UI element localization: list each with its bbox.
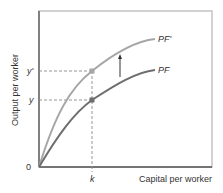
production-function-chart: PF' PF y' y 0 k Capital per worker Outpu… xyxy=(0,0,223,193)
pf-prime-label: PF' xyxy=(158,34,172,44)
y-axis-title: Output per worker xyxy=(10,54,20,126)
pf-prime-point xyxy=(90,69,95,74)
pf-prime-curve xyxy=(39,39,155,167)
x-axis-title: Capital per worker xyxy=(139,174,212,184)
k-tick-label: k xyxy=(90,174,95,184)
y-prime-tick-label: y' xyxy=(26,66,34,76)
y-tick-label: y xyxy=(28,95,34,105)
origin-label: 0 xyxy=(26,162,31,172)
shift-arrow-head-icon xyxy=(118,54,122,59)
plot-frame xyxy=(39,11,212,167)
pf-point xyxy=(90,98,95,103)
pf-label: PF xyxy=(158,65,170,75)
